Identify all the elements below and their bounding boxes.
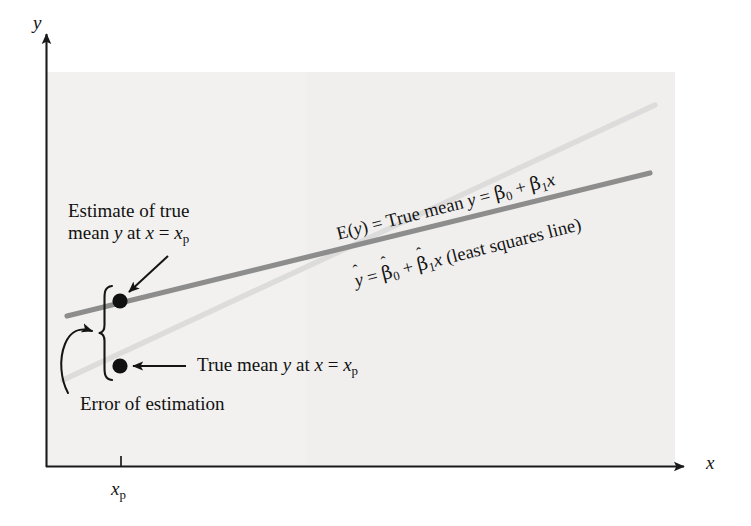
estimate-callout-equals: = bbox=[154, 222, 174, 243]
estimate-callout-mean-word: mean bbox=[68, 222, 114, 243]
estimate-of-true-mean-point bbox=[112, 293, 127, 308]
true-mean-callout-x-var: x bbox=[315, 354, 323, 375]
true-mean-callout-xp-base: x bbox=[343, 354, 351, 375]
estimate-callout-xp-base: x bbox=[174, 222, 182, 243]
y-axis-label: y bbox=[33, 12, 41, 34]
true-mean-callout: True mean y at x = xp bbox=[197, 354, 358, 378]
estimate-callout-line-1: Estimate of true bbox=[68, 200, 189, 222]
true-mean-callout-equals: = bbox=[323, 354, 343, 375]
true-mean-callout-xp-sub: p bbox=[352, 363, 358, 378]
estimate-callout-xp-sub: p bbox=[183, 231, 189, 246]
estimate-callout-line-2: mean y at x = xp bbox=[68, 222, 189, 246]
figure-canvas bbox=[0, 0, 751, 526]
true-mean-callout-prefix: True mean bbox=[197, 354, 283, 375]
error-of-estimation-callout: Error of estimation bbox=[80, 393, 225, 415]
x-tick-label-sub: p bbox=[119, 487, 125, 502]
estimate-callout-at-word: at bbox=[122, 222, 145, 243]
estimate-callout-x-var: x bbox=[146, 222, 154, 243]
regression-error-of-estimation-figure: y x xp Estimate of true mean y at x = xp… bbox=[0, 0, 751, 526]
true-mean-point bbox=[112, 358, 127, 373]
true-mean-callout-at-word: at bbox=[291, 354, 314, 375]
x-tick-label-xp: xp bbox=[111, 478, 126, 502]
estimate-of-true-mean-callout: Estimate of true mean y at x = xp bbox=[68, 200, 189, 246]
x-axis-label: x bbox=[706, 452, 714, 474]
